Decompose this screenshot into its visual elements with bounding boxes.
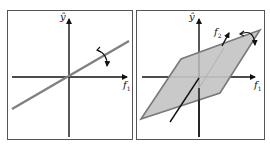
regression-line	[12, 41, 129, 109]
right-y-axis-label: ŷ	[189, 12, 195, 22]
right-x-axis-label: f1	[254, 80, 262, 92]
diagram-canvas	[0, 0, 270, 144]
regression-plane	[141, 30, 260, 119]
left-x-axis-label: f1	[123, 80, 131, 92]
left-y-axis-label: ŷ	[60, 12, 66, 22]
right-f2-axis-label: f2	[214, 27, 222, 39]
